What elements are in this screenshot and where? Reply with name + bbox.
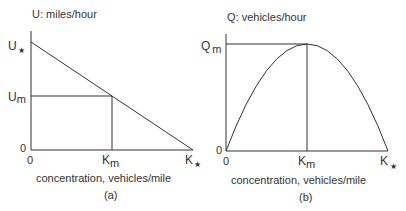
panel-a-x-zero: 0 <box>27 154 33 166</box>
panel-a-y-zero: 0 <box>20 142 26 154</box>
panel-a-um-label: Um <box>8 90 26 105</box>
panel-a-k-star-label: K★ <box>185 153 201 169</box>
panel-a-y-axis-title: U: miles/hour <box>32 8 97 20</box>
panel-a-x-axis-title: concentration, vehicles/mile <box>36 172 171 184</box>
panel-b-km-label: Km <box>298 154 315 170</box>
panel-a-speed-concentration: U: miles/hour U★ Um 0 0 Km K★ concentrat… <box>8 8 201 201</box>
panel-b-x-axis-title: concentration, vehicles/mile <box>231 174 366 186</box>
panel-b-k-star-label: K★ <box>380 154 397 171</box>
panel-a-u-star-label: U★ <box>8 39 25 55</box>
panel-a-caption: (a) <box>104 189 117 201</box>
panel-b-qm-label: Qm <box>201 39 222 55</box>
panel-b-flow-concentration: Q: vehicles/hour Qm 0 0 Km K★ concentrat… <box>201 11 397 203</box>
panel-b-x-zero: 0 <box>223 155 229 167</box>
panel-a-km-label: Km <box>102 153 119 169</box>
panel-b-caption: (b) <box>299 191 312 203</box>
traffic-flow-diagram: U: miles/hour U★ Um 0 0 Km K★ concentrat… <box>0 0 406 211</box>
panel-b-y-axis-title: Q: vehicles/hour <box>227 11 307 23</box>
panel-b-y-zero: 0 <box>216 144 222 156</box>
